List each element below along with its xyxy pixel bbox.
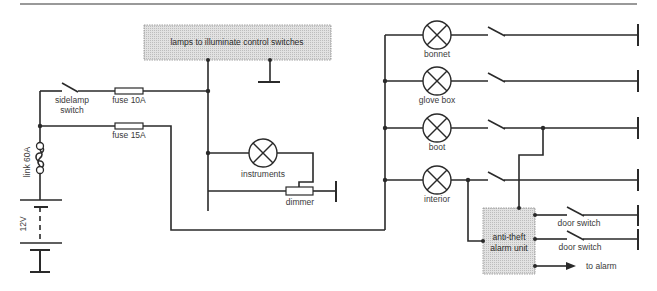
battery-label: 12V [18, 216, 28, 231]
door-switch-2-label: door switch [559, 242, 602, 252]
lamp-instruments [249, 139, 277, 167]
dimmer-label: dimmer [286, 197, 315, 207]
glove-box-switch [488, 73, 505, 82]
lamp-bonnet-label: bonnet [424, 49, 451, 59]
door-switch-1-label: door switch [558, 218, 601, 228]
alarm-unit-label-2: alarm unit [490, 243, 528, 253]
fuse-15a [115, 123, 143, 129]
sidelamp-switch-label: sidelamp [55, 95, 89, 105]
lamp-boot-label: boot [429, 142, 446, 152]
arrow-right-icon [566, 262, 576, 270]
fuse-10a-label: fuse 10A [112, 95, 146, 105]
alarm-unit-label-1: anti-theft [492, 232, 526, 242]
battery-12v [20, 200, 62, 272]
alarm-unit-box: anti-theft alarm unit [483, 208, 535, 274]
bonnet-switch [488, 27, 505, 36]
lamp-instruments-label: instruments [241, 169, 285, 179]
lamp-bonnet [423, 21, 451, 49]
lamp-boot [423, 114, 451, 142]
fuse-15a-label: fuse 15A [112, 130, 146, 140]
dimmer-rheostat [286, 187, 313, 195]
fuse-10a [115, 88, 208, 94]
link-60a [36, 143, 44, 201]
control-lamps-box: lamps to illuminate control switches [144, 25, 331, 60]
lamp-glove-box-label: glove box [419, 95, 456, 105]
link-60a-label: link 60A [22, 147, 32, 178]
ground-symbol-box [258, 58, 280, 82]
sidelamp-switch-label-2: switch [60, 105, 84, 115]
door-switch-1 [567, 207, 584, 216]
lamp-glove-box [423, 67, 451, 95]
lamp-interior-label: interior [424, 194, 450, 204]
interior-switch [488, 172, 505, 181]
to-alarm-label: to alarm [586, 261, 617, 271]
boot-switch [488, 120, 505, 129]
lamp-interior [423, 166, 451, 194]
wiring-diagram: lamps to illuminate control switches sid… [0, 0, 657, 291]
door-switch-2 [567, 231, 584, 240]
sidelamp-switch [62, 83, 115, 92]
control-lamps-label: lamps to illuminate control switches [170, 37, 303, 47]
